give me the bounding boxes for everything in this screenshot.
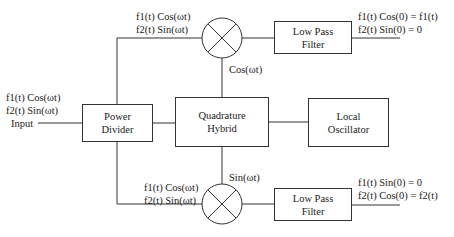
bottom-mixer-lo-label: Sin(ωt) [229,171,260,184]
local-oscillator-label-2: Oscillator [328,123,369,136]
top-output-line-2: f2(t) Sin(0) = 0 [358,23,438,36]
bottom-output-line-1: f1(t) Sin(0) = 0 [358,176,438,189]
low-pass-filter-top-block: Low Pass Filter [274,21,352,54]
bottom-branch-label: f1(t) Cos(ωt) f2(t) Sin(ωt) [144,181,198,207]
low-pass-filter-bottom-block: Low Pass Filter [274,188,352,221]
bottom-output-label: f1(t) Sin(0) = 0 f2(t) Cos(0) = f2(t) [358,176,438,202]
input-signal-label: f1(t) Cos(ωt) f2(t) Sin(ωt) Input [6,91,60,130]
bottom-branch-line-1: f1(t) Cos(ωt) [144,181,198,194]
quadrature-hybrid-label-2: Hybrid [207,122,237,135]
bottom-branch-line-2: f2(t) Sin(ωt) [144,194,198,207]
input-label: Input [11,117,60,130]
lpf-bottom-label-2: Filter [302,205,325,218]
power-divider-label-1: Power [104,110,131,123]
lpf-bottom-label-1: Low Pass [293,192,334,205]
lpf-top-label-2: Filter [302,38,325,51]
local-oscillator-label-1: Local [337,110,361,123]
top-branch-line-1: f1(t) Cos(ωt) [136,10,190,23]
quadrature-hybrid-block: Quadrature Hybrid [175,97,269,147]
power-divider-block: Power Divider [82,104,153,142]
lpf-top-label-1: Low Pass [293,25,334,38]
bottom-mixer-icon [202,184,242,224]
top-branch-line-2: f2(t) Sin(ωt) [136,23,190,36]
bottom-output-line-2: f2(t) Cos(0) = f2(t) [358,189,438,202]
power-divider-label-2: Divider [101,123,133,136]
top-mixer-icon [202,18,242,58]
input-signal-line-1: f1(t) Cos(ωt) [6,91,60,104]
top-output-label: f1(t) Cos(0) = f1(t) f2(t) Sin(0) = 0 [358,10,438,36]
input-signal-line-2: f2(t) Sin(ωt) [6,104,60,117]
local-oscillator-block: Local Oscillator [308,98,389,147]
quadrature-hybrid-label-1: Quadrature [198,109,245,122]
top-branch-label: f1(t) Cos(ωt) f2(t) Sin(ωt) [136,10,190,36]
top-mixer-lo-label: Cos(ωt) [229,63,262,76]
top-output-line-1: f1(t) Cos(0) = f1(t) [358,10,438,23]
